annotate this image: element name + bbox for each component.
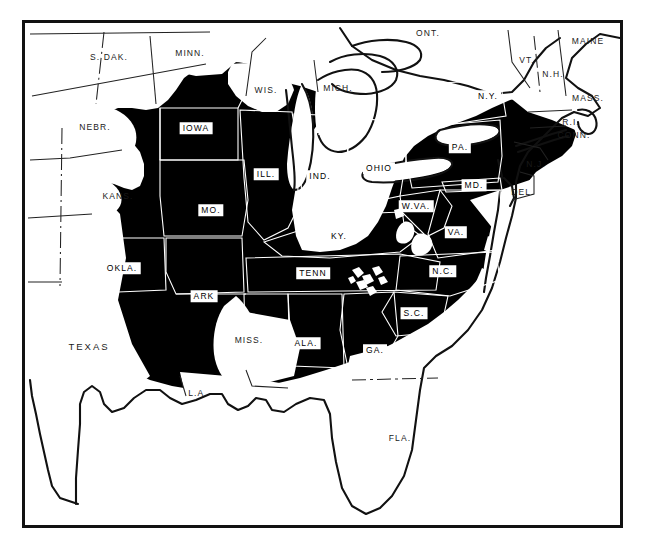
state-label-kans: KANS. — [102, 192, 133, 201]
range-map-figure: IOWAILL.IND.OHIOPA.N.Y.MO.KY.W.VA.VA.MD.… — [0, 0, 646, 535]
state-label-fla: FLA. — [389, 434, 411, 443]
state-label-wva: W.VA. — [399, 200, 434, 212]
state-label-md: MD. — [462, 179, 487, 191]
state-label-ky: KY. — [328, 230, 350, 242]
state-label-ala: ALA. — [292, 337, 321, 349]
state-label-pa: PA. — [449, 141, 471, 153]
state-label-mo: MO. — [198, 204, 223, 216]
state-label-texas: TEXAS — [68, 342, 109, 352]
state-label-okla: OKLA. — [104, 262, 141, 274]
state-label-nc: N.C. — [429, 265, 456, 277]
state-label-tenn: TENN — [296, 267, 330, 279]
state-label-va: VA. — [445, 226, 467, 238]
state-label-ohio: OHIO — [363, 162, 395, 174]
state-label-mich: MICH. — [323, 84, 353, 93]
state-label-del: DEL. — [511, 188, 534, 197]
state-label-nj: N.J. — [526, 160, 546, 169]
state-label-ark: ARK — [191, 290, 218, 302]
state-label-nh: N.H. — [542, 70, 563, 79]
state-label-la: L.A. — [188, 389, 208, 398]
state-label-ri: R.I. — [562, 118, 580, 127]
state-label-ind: IND. — [306, 170, 333, 182]
state-label-sc: S.C. — [401, 307, 428, 319]
state-label-ont: ONT. — [416, 29, 440, 38]
state-label-mass: MASS. — [572, 94, 604, 103]
state-label-nebr: NEBR. — [79, 123, 110, 132]
state-label-wis: WIS. — [255, 86, 278, 95]
state-label-iowa: IOWA — [180, 122, 213, 134]
state-label-sdak: S. DAK. — [90, 53, 128, 62]
state-label-vt: VT. — [519, 56, 535, 65]
state-label-conn: CONN. — [558, 131, 591, 140]
state-label-ill: ILL. — [254, 168, 279, 180]
state-label-minn: MINN. — [175, 49, 205, 58]
state-label-miss: MISS. — [235, 336, 264, 345]
state-label-ny: N.Y. — [475, 90, 501, 102]
state-label-maine: MAINE — [572, 37, 604, 46]
state-label-ga: GA. — [363, 344, 387, 356]
